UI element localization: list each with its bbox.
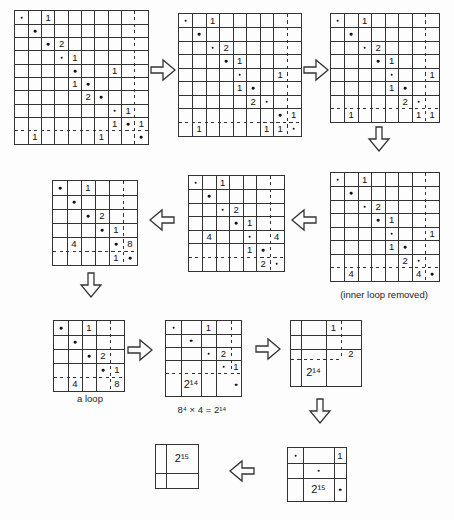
matrix-grid-step1-10x10: 12111211111 bbox=[14, 10, 149, 145]
matrix-value: 1 bbox=[46, 13, 51, 22]
matrix-value: 2 bbox=[376, 202, 381, 212]
dashed-partition-line-v bbox=[110, 321, 111, 391]
dot-marker bbox=[265, 100, 268, 103]
grid-line-v bbox=[192, 14, 193, 136]
matrix-value: 4 bbox=[72, 379, 77, 389]
dot-marker bbox=[211, 46, 214, 49]
grid-line-v bbox=[82, 321, 83, 391]
grid-line-h bbox=[15, 90, 148, 91]
dot-marker bbox=[184, 19, 187, 22]
dashed-partition-line-v bbox=[287, 14, 288, 136]
matrix-value: 2 bbox=[221, 348, 226, 358]
matrix-value: 2 bbox=[261, 259, 266, 269]
dot-marker bbox=[60, 56, 63, 59]
grid-line-v bbox=[96, 321, 97, 391]
flow-arrow-right-icon bbox=[303, 57, 329, 83]
dot-marker bbox=[417, 259, 420, 262]
matrix-value: 1 bbox=[389, 215, 394, 225]
dot-marker bbox=[208, 195, 211, 198]
grid-line-v bbox=[68, 321, 69, 391]
matrix-value: 1 bbox=[389, 83, 394, 93]
matrix-value: 2 bbox=[403, 256, 408, 266]
matrix-value: 1 bbox=[247, 218, 252, 228]
grid-line-h bbox=[54, 335, 124, 336]
matrix-value: 1 bbox=[430, 70, 435, 80]
dot-marker bbox=[363, 205, 366, 208]
matrix-value: 1 bbox=[362, 16, 367, 25]
grid-line-v bbox=[206, 14, 207, 136]
dot-marker bbox=[377, 60, 380, 63]
dot-marker bbox=[275, 262, 278, 265]
matrix-value: 1 bbox=[220, 178, 225, 188]
grid-line-h bbox=[53, 223, 137, 224]
dot-marker bbox=[74, 70, 77, 73]
matrix-value: 1 bbox=[430, 110, 435, 120]
grid-line-h bbox=[331, 81, 439, 82]
dot-marker bbox=[59, 187, 62, 190]
dashed-partition-line-h bbox=[291, 359, 341, 360]
grid-line-h bbox=[331, 200, 439, 201]
grid-line-h bbox=[54, 349, 124, 350]
grid-line-h bbox=[53, 237, 137, 238]
matrix-value: 2¹⁵ bbox=[311, 484, 325, 495]
dot-marker bbox=[238, 73, 241, 76]
matrix-value: 1 bbox=[72, 52, 77, 62]
grid-line-h bbox=[291, 335, 361, 336]
matrix-value: 1 bbox=[197, 124, 202, 133]
dashed-partition-line-h bbox=[53, 251, 137, 252]
dot-marker bbox=[207, 352, 210, 355]
matrix-value: 1 bbox=[331, 323, 336, 333]
matrix-value: 1 bbox=[237, 56, 242, 65]
grid-line-h bbox=[331, 213, 439, 214]
flow-arrow-down-icon bbox=[307, 398, 333, 424]
dot-marker bbox=[417, 100, 420, 103]
matrix-value: 1 bbox=[113, 225, 118, 235]
dot-marker bbox=[87, 215, 90, 218]
dot-marker bbox=[377, 219, 380, 222]
dot-marker bbox=[101, 229, 104, 232]
dot-marker bbox=[73, 201, 76, 204]
dot-marker bbox=[222, 365, 225, 368]
grid-line-h bbox=[53, 195, 137, 196]
grid-line-h bbox=[15, 50, 148, 51]
matrix-value: 8 bbox=[127, 239, 132, 249]
matrix-value: 4 bbox=[274, 232, 279, 242]
matrix-value: 1 bbox=[362, 175, 367, 185]
matrix-value: 1 bbox=[264, 124, 269, 133]
matrix-value: 2¹⁵ bbox=[175, 453, 189, 464]
grid-line-h bbox=[189, 230, 284, 231]
dashed-partition-line-h bbox=[166, 373, 241, 374]
matrix-value: 1 bbox=[389, 242, 394, 252]
dot-marker bbox=[317, 469, 320, 472]
grid-line-v bbox=[273, 14, 274, 136]
matrix-value: 1 bbox=[113, 253, 118, 263]
grid-line-h bbox=[331, 95, 439, 96]
grid-line-h bbox=[179, 41, 301, 42]
dot-marker bbox=[115, 243, 118, 246]
matrix-grid-step7-5x5-a-loop: 12148 bbox=[53, 320, 125, 392]
grid-line-h bbox=[179, 95, 301, 96]
dot-marker bbox=[20, 16, 23, 19]
grid-line-h bbox=[179, 108, 301, 109]
matrix-value: 1 bbox=[291, 110, 296, 120]
grid-line-h bbox=[189, 243, 284, 244]
matrix-grid-step2-9x9: 1211121111 bbox=[178, 13, 302, 137]
matrix-value: 4 bbox=[416, 269, 421, 279]
grid-line-v bbox=[334, 448, 335, 501]
matrix-grid-step5-7x7: 1214412 bbox=[188, 175, 285, 272]
grid-line-h bbox=[53, 209, 137, 210]
matrix-value: 2 bbox=[251, 97, 256, 107]
matrix-value: 2 bbox=[403, 97, 408, 107]
flow-arrow-left-icon bbox=[291, 207, 317, 233]
grid-line-h bbox=[166, 360, 241, 361]
flow-arrow-left-icon bbox=[149, 207, 175, 233]
grid-line-v bbox=[166, 445, 167, 488]
grid-line-h bbox=[331, 227, 439, 228]
dot-marker bbox=[190, 339, 193, 342]
grid-line-h bbox=[15, 37, 148, 38]
dot-marker bbox=[172, 326, 175, 329]
figure-canvas: (inner loop removed) a loop 8⁴ × 4 = 2¹⁴… bbox=[0, 0, 454, 520]
matrix-value: 4 bbox=[71, 239, 76, 249]
dot-marker bbox=[221, 208, 224, 211]
grid-line-h bbox=[331, 68, 439, 69]
